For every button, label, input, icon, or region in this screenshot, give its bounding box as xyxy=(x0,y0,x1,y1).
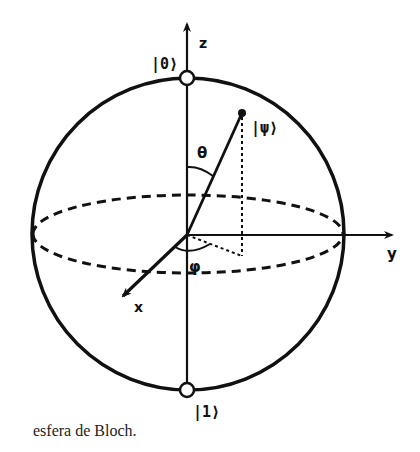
ket-0-label: |0⟩ xyxy=(151,55,178,74)
phi-label: φ xyxy=(189,258,201,276)
ket-psi-label: |ψ⟩ xyxy=(251,119,278,138)
phi-arc xyxy=(175,244,210,251)
theta-arc xyxy=(187,167,213,176)
projection-horizontal xyxy=(187,235,242,256)
x-axis-label: x xyxy=(134,299,143,315)
figure-caption: esfera de Bloch. xyxy=(33,422,137,440)
bloch-sphere-diagram: z y x |0⟩ |1⟩ |ψ⟩ θ φ xyxy=(0,0,420,452)
theta-label: θ xyxy=(197,144,207,162)
x-axis xyxy=(123,235,187,296)
y-axis-label: y xyxy=(387,245,397,263)
state-vector xyxy=(187,113,242,235)
state-point xyxy=(238,109,246,117)
ket-1-label: |1⟩ xyxy=(193,403,220,422)
north-pole-node xyxy=(180,71,194,85)
south-pole-node xyxy=(180,383,194,397)
z-axis-label: z xyxy=(199,35,207,51)
